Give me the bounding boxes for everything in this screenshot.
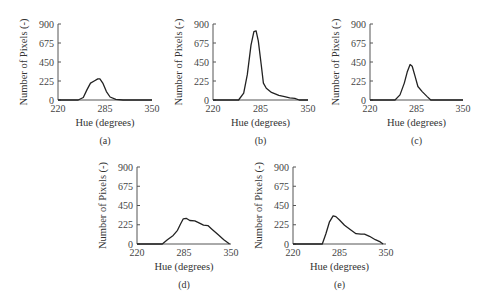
- x-tick-label: 220: [286, 247, 301, 258]
- axes-d: [137, 167, 231, 244]
- y-tick-label: 900: [194, 19, 209, 30]
- axes-c: [370, 24, 463, 100]
- x-tick-label: 350: [301, 103, 316, 114]
- x-tick-label: 220: [51, 103, 66, 114]
- y-tick-label: 450: [39, 57, 54, 68]
- y-tick-label: 675: [351, 38, 366, 49]
- axes-e: [293, 167, 386, 244]
- histogram-curve-c: [370, 65, 463, 101]
- x-tick-label: 285: [253, 103, 268, 114]
- y-axis-label-b: Number of Pixels (-): [173, 18, 185, 106]
- panel-label-b: (b): [255, 135, 267, 147]
- y-axis-label-e: Number of Pixels (-): [253, 161, 265, 249]
- y-tick-label: 900: [39, 19, 54, 30]
- histogram-curve-b: [213, 31, 308, 100]
- histogram-curve-e: [293, 216, 383, 244]
- x-axis-label-b: Hue (degrees): [231, 117, 291, 129]
- y-tick-label: 675: [118, 181, 133, 192]
- x-axis-label-a: Hue (degrees): [75, 117, 135, 129]
- figure: 0225450675900220285350Hue (degrees)Numbe…: [0, 0, 490, 304]
- y-tick-label: 900: [274, 162, 289, 173]
- x-tick-label: 285: [177, 247, 192, 258]
- y-tick-label: 675: [39, 38, 54, 49]
- x-tick-label: 285: [409, 103, 424, 114]
- x-tick-label: 220: [130, 247, 145, 258]
- histogram-curve-a: [58, 79, 152, 100]
- y-tick-label: 450: [274, 200, 289, 211]
- x-tick-label: 220: [206, 103, 221, 114]
- x-axis-label-d: Hue (degrees): [154, 261, 214, 273]
- x-tick-label: 350: [145, 103, 160, 114]
- histogram-curve-d: [137, 218, 230, 244]
- y-tick-label: 675: [274, 181, 289, 192]
- y-tick-label: 225: [351, 76, 366, 87]
- x-axis-label-e: Hue (degrees): [310, 261, 370, 273]
- panel-label-a: (a): [99, 135, 110, 147]
- y-tick-label: 900: [351, 19, 366, 30]
- y-tick-label: 450: [351, 57, 366, 68]
- y-tick-label: 225: [274, 219, 289, 230]
- x-tick-label: 220: [363, 103, 378, 114]
- y-axis-label-a: Number of Pixels (-): [18, 18, 30, 106]
- x-tick-label: 350: [456, 103, 471, 114]
- y-tick-label: 225: [118, 219, 133, 230]
- y-tick-label: 225: [194, 76, 209, 87]
- y-tick-label: 450: [194, 57, 209, 68]
- y-tick-label: 675: [194, 38, 209, 49]
- x-tick-label: 350: [379, 247, 394, 258]
- y-tick-label: 450: [118, 200, 133, 211]
- panel-label-c: (c): [411, 135, 422, 147]
- x-tick-label: 350: [224, 247, 239, 258]
- y-tick-label: 900: [118, 162, 133, 173]
- x-tick-label: 285: [332, 247, 347, 258]
- y-axis-label-c: Number of Pixels (-): [330, 18, 342, 106]
- y-axis-label-d: Number of Pixels (-): [97, 161, 109, 249]
- panel-label-d: (d): [178, 279, 190, 291]
- y-tick-label: 225: [39, 76, 54, 87]
- x-axis-label-c: Hue (degrees): [387, 117, 447, 129]
- x-tick-label: 285: [98, 103, 113, 114]
- panel-label-e: (e): [334, 279, 345, 291]
